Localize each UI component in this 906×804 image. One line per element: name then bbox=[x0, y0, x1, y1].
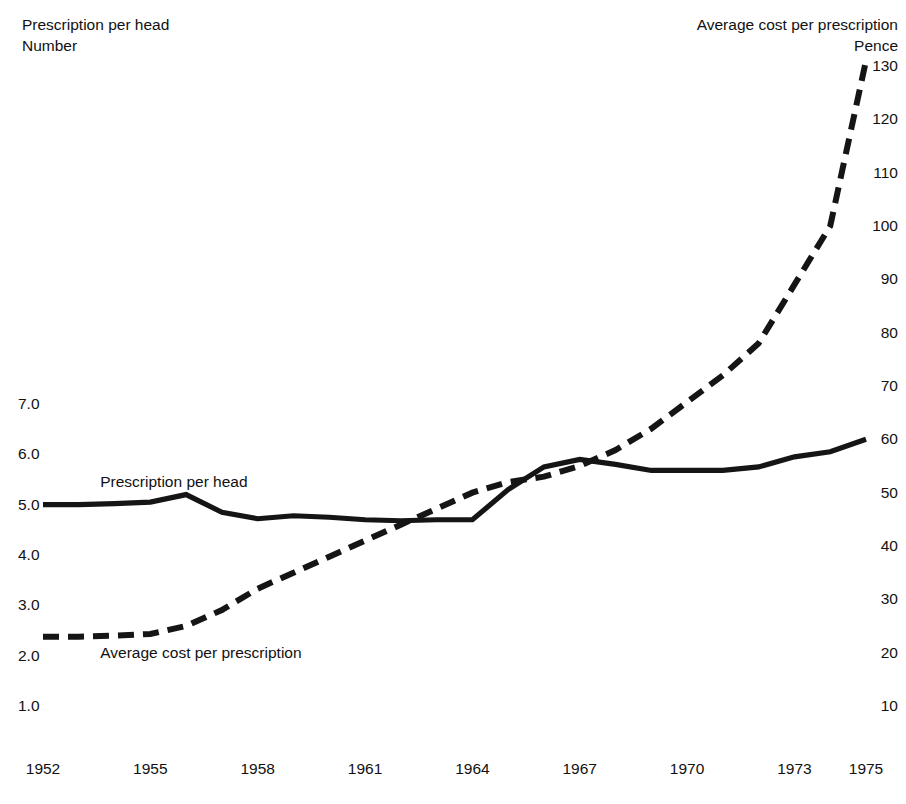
chart-container: Prescription per head Number Average cos… bbox=[0, 0, 906, 804]
series-line-average-cost-per-prescription bbox=[43, 61, 866, 637]
series-annotation-prescription-per-head: Prescription per head bbox=[100, 474, 247, 490]
series-annotation-average-cost-per-prescription: Average cost per prescription bbox=[100, 645, 301, 661]
plot-area bbox=[0, 0, 906, 804]
